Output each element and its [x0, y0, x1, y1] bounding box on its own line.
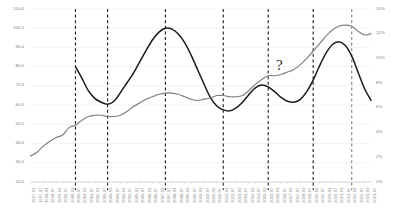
- x-tick-label: 2010-07: [206, 187, 210, 202]
- x-tick-label: 2009-01: [186, 187, 190, 202]
- y-left-tick-label: 50.0: [2, 122, 24, 126]
- x-tick-label: 2014-07: [257, 187, 261, 202]
- x-tick-label: 2002-07: [103, 187, 107, 202]
- x-tick-label: 2023-07: [373, 187, 377, 202]
- x-tick-label: 2007-07: [167, 187, 171, 202]
- x-tick-label: 2008-01: [173, 187, 177, 202]
- x-tick-label: 2013-07: [244, 187, 248, 202]
- x-tick-label: 2009-07: [193, 187, 197, 202]
- y-left-tick-label: 20.0: [2, 180, 24, 184]
- x-tick-label: 2020-01: [328, 187, 332, 202]
- x-tick-label: 2012-01: [225, 187, 229, 202]
- y-left-tick-label: 60.0: [2, 103, 24, 107]
- x-tick-label: 2000-01: [71, 187, 75, 202]
- x-tick-label: 2022-07: [360, 187, 364, 202]
- y-right-tick-label: 14%: [376, 7, 400, 11]
- y-right-tick-label: 4%: [376, 130, 400, 134]
- y-left-tick-label: 30.0: [2, 160, 24, 164]
- series-line-black-series: [75, 28, 371, 111]
- y-right-tick-label: 2%: [376, 155, 400, 159]
- x-tick-label: 2005-07: [141, 187, 145, 202]
- x-tick-label: 2022-01: [353, 187, 357, 202]
- x-tick-label: 2018-01: [302, 187, 306, 202]
- x-tick-label: 2019-07: [321, 187, 325, 202]
- y-left-tick-label: 90.0: [2, 45, 24, 49]
- x-tick-label: 2014-01: [251, 187, 255, 202]
- x-tick-label: 2020-07: [334, 187, 338, 202]
- y-right-tick-label: 8%: [376, 81, 400, 85]
- y-right-tick-label: 10%: [376, 56, 400, 60]
- x-tick-label: 2015-07: [270, 187, 274, 202]
- x-tick-label: 1999-01: [58, 187, 62, 202]
- x-tick-label: 2019-01: [315, 187, 319, 202]
- y-left-tick-label: 70.0: [2, 83, 24, 87]
- x-tick-label: 2015-01: [263, 187, 267, 202]
- x-tick-label: 2016-01: [276, 187, 280, 202]
- x-tick-label: 2002-01: [96, 187, 100, 202]
- x-tick-label: 2016-07: [283, 187, 287, 202]
- question-mark-annotation: ?: [276, 58, 283, 73]
- x-tick-label: 2001-07: [90, 187, 94, 202]
- x-tick-label: 2006-01: [148, 187, 152, 202]
- x-tick-label: 2004-01: [122, 187, 126, 202]
- x-tick-label: 1998-07: [51, 187, 55, 202]
- x-tick-label: 2001-01: [83, 187, 87, 202]
- chart-container: 20.030.040.050.060.070.080.090.0100.0110…: [0, 0, 402, 222]
- x-tick-label: 2011-07: [218, 187, 222, 202]
- x-tick-label: 1999-07: [64, 187, 68, 202]
- x-tick-label: 2004-07: [128, 187, 132, 202]
- x-tick-label: 2023-01: [366, 187, 370, 202]
- x-tick-label: 2017-01: [289, 187, 293, 202]
- x-tick-label: 2017-07: [296, 187, 300, 202]
- x-tick-label: 2008-07: [180, 187, 184, 202]
- series-group: [31, 25, 372, 156]
- x-tick-label: 2000-07: [77, 187, 81, 202]
- x-tick-label: 2003-07: [116, 187, 120, 202]
- x-tick-label: 2021-07: [347, 187, 351, 202]
- series-line-gray-series: [31, 25, 372, 156]
- y-left-tick-label: 40.0: [2, 141, 24, 145]
- y-right-tick-label: 12%: [376, 31, 400, 35]
- y-left-tick-label: 100.0: [2, 26, 24, 30]
- x-tick-label: 1997-07: [39, 187, 43, 202]
- x-tick-label: 1998-01: [45, 187, 49, 202]
- x-tick-label: 2012-07: [231, 187, 235, 202]
- y-left-tick-label: 110.0: [2, 7, 24, 11]
- x-tick-label: 2006-07: [154, 187, 158, 202]
- x-tick-label: 2005-01: [135, 187, 139, 202]
- x-tick-label: 1997-01: [32, 187, 36, 202]
- x-tick-label: 2021-01: [340, 187, 344, 202]
- gridlines-group: [31, 9, 372, 182]
- x-tick-label: 2011-01: [212, 187, 216, 202]
- x-tick-label: 2010-01: [199, 187, 203, 202]
- x-tick-label: 2003-01: [109, 187, 113, 202]
- x-tick-label: 2013-01: [238, 187, 242, 202]
- y-left-tick-label: 80.0: [2, 64, 24, 68]
- x-tick-label: 2007-01: [161, 187, 165, 202]
- y-right-tick-label: 0%: [376, 180, 400, 184]
- y-right-tick-label: 6%: [376, 105, 400, 109]
- x-tick-label: 2018-07: [308, 187, 312, 202]
